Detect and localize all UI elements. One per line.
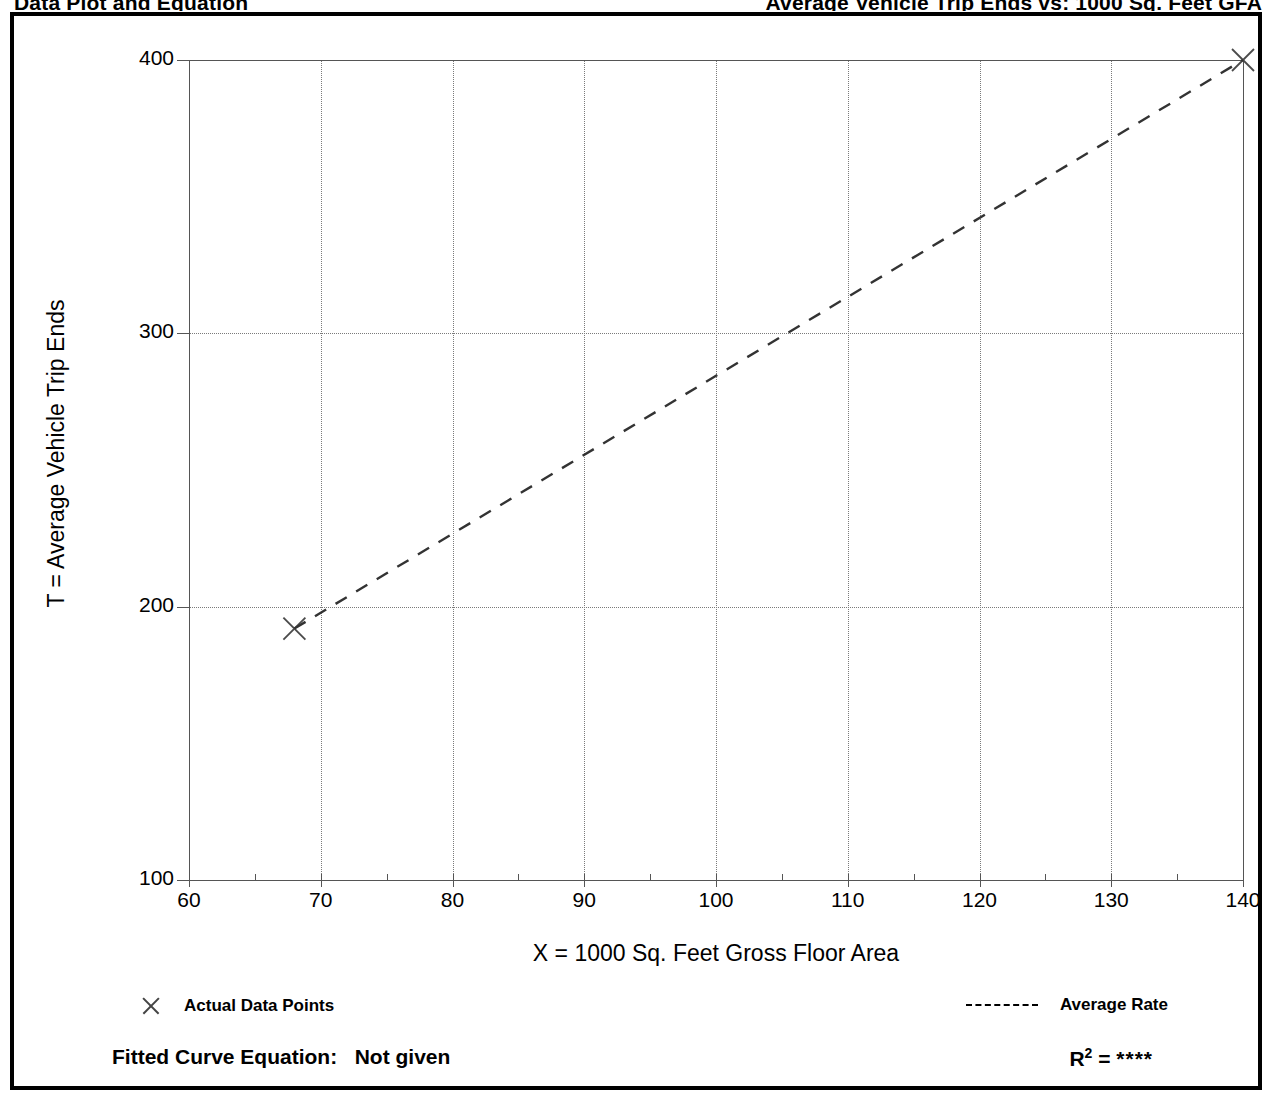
r-squared-equals: = bbox=[1098, 1047, 1110, 1070]
x-axis-title: X = 1000 Sq. Feet Gross Floor Area bbox=[189, 940, 1243, 967]
y-axis-tick-label: 300 bbox=[84, 319, 174, 343]
legend-average-rate: Average Rate bbox=[966, 995, 1168, 1015]
r-squared-annotation: R2 = **** bbox=[1069, 1045, 1153, 1071]
legend-label-actual-data-points: Actual Data Points bbox=[184, 996, 334, 1016]
x-axis-tick-label: 100 bbox=[676, 888, 756, 912]
y-axis-line bbox=[189, 60, 190, 881]
r-squared-exponent: 2 bbox=[1085, 1045, 1093, 1061]
x-axis-tick-label: 120 bbox=[940, 888, 1020, 912]
x-axis-tick-label: 140 bbox=[1203, 888, 1273, 912]
legend-label-average-rate: Average Rate bbox=[1060, 995, 1168, 1015]
y-axis-tick-label: 100 bbox=[84, 866, 174, 890]
x-axis-tick-label: 70 bbox=[281, 888, 361, 912]
dashed-line-icon bbox=[966, 1004, 1038, 1006]
x-gridline bbox=[716, 60, 717, 880]
y-gridline bbox=[189, 333, 1243, 334]
plot-top-border bbox=[189, 60, 1244, 61]
x-axis-tick-label: 110 bbox=[808, 888, 888, 912]
r-squared-value: **** bbox=[1116, 1047, 1153, 1070]
data-point-marker bbox=[283, 618, 305, 640]
x-marker-icon bbox=[140, 995, 162, 1017]
chart-plot-wrapper: T = Average Vehicle Trip Ends X = 1000 S… bbox=[0, 0, 1273, 1098]
x-axis-tick-label: 130 bbox=[1071, 888, 1151, 912]
fitted-curve-equation-value: Not given bbox=[355, 1045, 451, 1068]
x-axis-line bbox=[189, 880, 1244, 881]
x-axis-tick-label: 60 bbox=[149, 888, 229, 912]
x-axis-tick-label: 90 bbox=[544, 888, 624, 912]
x-gridline bbox=[848, 60, 849, 880]
average-rate-line bbox=[294, 60, 1243, 629]
x-gridline bbox=[321, 60, 322, 880]
x-gridline bbox=[1111, 60, 1112, 880]
legend-actual-data-points: Actual Data Points bbox=[140, 995, 334, 1017]
y-axis-tick-label: 200 bbox=[84, 593, 174, 617]
fitted-curve-equation: Fitted Curve Equation: Not given bbox=[112, 1045, 450, 1069]
y-axis-title: T = Average Vehicle Trip Ends bbox=[43, 144, 70, 764]
series-layer bbox=[0, 0, 1273, 1098]
y-axis-tick-label: 400 bbox=[84, 46, 174, 70]
r-squared-label: R bbox=[1069, 1047, 1084, 1070]
x-axis-tick-label: 80 bbox=[413, 888, 493, 912]
x-gridline bbox=[584, 60, 585, 880]
fitted-curve-equation-label: Fitted Curve Equation: bbox=[112, 1045, 337, 1068]
x-gridline bbox=[980, 60, 981, 880]
plot-right-border bbox=[1243, 60, 1244, 881]
y-gridline bbox=[189, 607, 1243, 608]
x-gridline bbox=[453, 60, 454, 880]
